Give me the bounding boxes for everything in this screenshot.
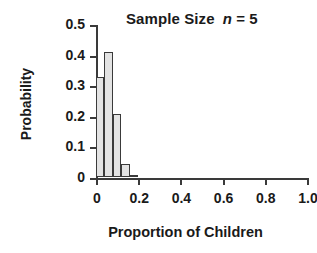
x-tick-5: 1.0 <box>307 178 309 185</box>
bar-1 <box>104 52 112 177</box>
x-tick-label-4: 0.8 <box>256 190 275 206</box>
y-axis-title: Probability <box>18 34 34 174</box>
x-tick-0: 0 <box>96 178 98 185</box>
x-tick-label-3: 0.6 <box>214 190 233 206</box>
x-tick-2: 0.4 <box>180 178 182 185</box>
bar-3 <box>121 164 129 177</box>
y-tick-label-0: 0 <box>77 169 85 185</box>
chart-figure: Sample Sizen = 5 Probability Proportion … <box>0 0 317 253</box>
y-tick-label-4: 0.4 <box>66 47 85 63</box>
y-tick-4: 0.4 <box>90 56 97 58</box>
x-tick-4: 0.8 <box>265 178 267 185</box>
plot-area: 00.10.20.30.40.5 00.20.40.60.81.0 <box>96 25 307 179</box>
x-tick-label-2: 0.4 <box>172 190 191 206</box>
x-tick-label-1: 0.2 <box>129 190 148 206</box>
x-tick-3: 0.6 <box>223 178 225 185</box>
x-axis-line <box>96 178 307 180</box>
y-tick-label-3: 0.3 <box>66 77 85 93</box>
x-tick-label-5: 1.0 <box>298 190 317 206</box>
y-tick-label-2: 0.2 <box>66 108 85 124</box>
x-tick-label-0: 0 <box>93 190 101 206</box>
bar-4 <box>130 175 138 177</box>
y-tick-label-5: 0.5 <box>66 16 85 32</box>
y-tick-5: 0.5 <box>90 25 97 27</box>
x-tick-1: 0.2 <box>138 178 140 185</box>
x-axis-title: Proportion of Children <box>63 224 308 240</box>
bar-2 <box>113 114 121 177</box>
bar-0 <box>96 77 104 177</box>
y-tick-label-1: 0.1 <box>66 138 85 154</box>
